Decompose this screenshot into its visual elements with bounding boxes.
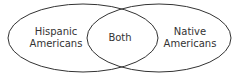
right-label-line1: Native (160, 26, 220, 38)
left-label-line2: Americans (26, 38, 86, 50)
right-label-line2: Americans (160, 38, 220, 50)
left-set-label: Hispanic Americans (26, 26, 86, 50)
left-label-line1: Hispanic (26, 26, 86, 38)
right-set-label: Native Americans (160, 26, 220, 50)
intersection-label: Both (104, 32, 136, 44)
